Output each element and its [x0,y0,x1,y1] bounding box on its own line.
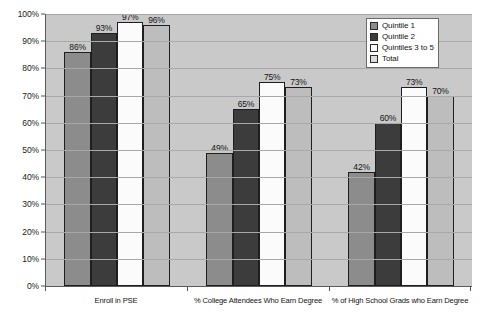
gridline [46,259,472,260]
bar-value-label: 75% [264,72,280,82]
y-axis-tick-label: 90% [22,36,39,46]
y-axis-tick-label: 10% [22,254,39,264]
gridline [46,232,472,233]
legend-swatch-icon [370,33,378,41]
x-axis-category: % College Attendees Who Earn Degree [187,287,329,313]
y-axis-tick-label: 50% [22,145,39,155]
x-axis: Enroll in PSE% College Attendees Who Ear… [45,287,471,313]
bar[interactable]: 73% [401,87,427,286]
bar[interactable]: 86% [64,52,90,286]
bar[interactable]: 97% [117,22,143,286]
bar-value-label: 73% [406,77,422,87]
x-axis-label: % College Attendees Who Earn Degree [194,296,322,313]
bar-value-label: 49% [211,143,227,153]
x-axis-label: % of High School Grads who Earn Degree [332,296,469,313]
gridline [46,123,472,124]
bar[interactable]: 73% [285,87,311,286]
bar-value-label: 73% [290,77,306,87]
gridline [46,150,472,151]
chart-legend: Quintile 1Quintile 2Quintiles 3 to 5Tota… [366,18,439,68]
bar[interactable]: 70% [427,96,453,286]
bar-value-label: 86% [69,42,85,52]
bar[interactable]: 49% [206,153,232,286]
x-axis-tick-mark [470,287,471,291]
legend-item-label: Quintile 1 [382,21,415,31]
x-axis-label: Enroll in PSE [95,296,138,313]
gridline [46,204,472,205]
legend-item-label: Quintile 2 [382,32,415,42]
x-axis-category: Enroll in PSE [45,287,187,313]
legend-swatch-icon [370,55,378,63]
y-axis-tick-label: 20% [22,227,39,237]
x-axis-tick-mark [329,287,330,291]
gridline [46,96,472,97]
bar[interactable]: 75% [259,82,285,286]
y-axis-tick-label: 30% [22,199,39,209]
bar-value-label: 60% [380,113,396,123]
legend-item-label: Quintiles 3 to 5 [382,43,434,53]
bar-value-label: 96% [148,15,164,25]
x-axis-category: % of High School Grads who Earn Degree [329,287,471,313]
legend-item[interactable]: Quintiles 3 to 5 [370,43,434,53]
bar-chart: 100%90%80%70%60%50%40%30%20%10%0% 86%93%… [0,0,483,327]
x-axis-tick-mark [187,287,188,291]
legend-swatch-icon [370,22,378,30]
bar[interactable]: 93% [91,33,117,286]
gridline [46,177,472,178]
bar[interactable]: 96% [143,25,169,286]
gridline [46,14,472,15]
legend-item[interactable]: Quintile 1 [370,21,434,31]
y-axis-tick-label: 0% [27,281,39,291]
y-axis-tick-label: 60% [22,118,39,128]
y-axis-tick-label: 80% [22,63,39,73]
legend-swatch-icon [370,44,378,52]
legend-item-label: Total [382,54,398,64]
gridline [46,68,472,69]
x-axis-tick-mark [45,287,46,291]
bar[interactable]: 42% [348,172,374,286]
bar-value-label: 42% [353,162,369,172]
bar-value-label: 65% [238,99,254,109]
y-axis: 100%90%80%70%60%50%40%30%20%10%0% [0,14,45,286]
bar-value-label: 93% [96,23,112,33]
bar-value-label: 70% [432,86,448,96]
legend-item[interactable]: Total [370,54,434,64]
y-axis-tick-label: 100% [18,9,39,19]
y-axis-tick-label: 70% [22,91,39,101]
y-axis-tick-label: 40% [22,172,39,182]
legend-item[interactable]: Quintile 2 [370,32,434,42]
